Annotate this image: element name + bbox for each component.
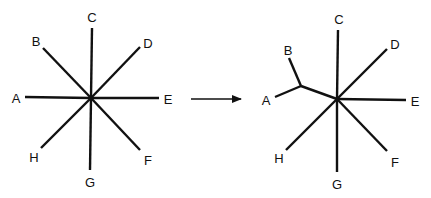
node-label-f: F <box>144 153 152 168</box>
diagram-canvas: ABCDEFGH ABCDEFGH <box>0 0 431 198</box>
node-label-h: H <box>274 151 283 166</box>
branch-h <box>41 98 91 148</box>
node-label-a: A <box>12 91 21 106</box>
node-label-e: E <box>411 94 420 109</box>
internal-branch <box>301 86 337 99</box>
node-label-c: C <box>87 10 96 25</box>
node-label-b: B <box>32 34 41 49</box>
branch-b <box>289 58 301 86</box>
node-label-g: G <box>332 177 342 192</box>
node-label-a: A <box>262 93 271 108</box>
node-label-e: E <box>164 92 173 107</box>
branch-c <box>91 28 92 98</box>
node-label-b: B <box>284 43 293 58</box>
branch-a <box>275 86 301 97</box>
diagram-svg: ABCDEFGH ABCDEFGH <box>0 0 431 198</box>
branch-g <box>90 98 91 170</box>
branch-f <box>337 99 387 151</box>
branch-e <box>337 99 406 100</box>
node-label-c: C <box>334 12 343 27</box>
node-label-g: G <box>85 175 95 190</box>
right-resolved-tree: ABCDEFGH <box>262 12 420 192</box>
node-label-d: D <box>390 37 399 52</box>
left-star-tree: ABCDEFGH <box>12 10 173 190</box>
node-label-d: D <box>143 36 152 51</box>
branch-d <box>337 49 387 99</box>
node-label-f: F <box>391 155 399 170</box>
branch-f <box>91 98 140 150</box>
branch-c <box>337 30 338 99</box>
node-label-h: H <box>29 150 38 165</box>
branch-d <box>91 47 140 98</box>
branch-a <box>25 97 91 98</box>
branch-b <box>43 48 91 98</box>
branch-h <box>286 99 337 150</box>
